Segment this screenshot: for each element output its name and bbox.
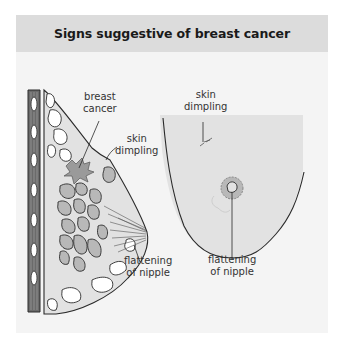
label-text: cancer [83,103,117,115]
label-text: dimpling [184,101,227,113]
label-text: skin [184,89,227,101]
label-breast-cancer: breast cancer [83,91,117,115]
label-text: skin [115,133,158,145]
label-text: dimpling [115,145,158,157]
breast-illustration [0,0,338,340]
label-flattening-left: flattening of nipple [124,255,172,279]
label-text: of nipple [208,266,256,278]
side-view-illustration [28,90,148,314]
label-skin-dimpling-left: skin dimpling [115,133,158,157]
label-text: of nipple [124,267,172,279]
label-text: flattening [208,254,256,266]
label-text: breast [83,91,117,103]
label-flattening-right: flattening of nipple [208,254,256,278]
label-text: flattening [124,255,172,267]
front-view-illustration [160,115,304,260]
label-skin-dimpling-right: skin dimpling [184,89,227,113]
